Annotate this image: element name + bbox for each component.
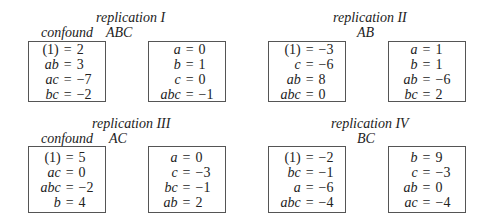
- cell-label: ab: [280, 72, 300, 87]
- equals-sign: =: [66, 165, 74, 180]
- cell-value: 1: [436, 42, 451, 57]
- equals-sign: =: [306, 195, 314, 210]
- cell-value: −1: [199, 87, 214, 102]
- cell-value: −4: [436, 195, 451, 210]
- equals-sign: =: [186, 42, 194, 57]
- equals-sign: =: [306, 57, 314, 72]
- equals-sign: =: [64, 87, 72, 102]
- cell-label: c: [164, 165, 178, 180]
- equals-sign: =: [423, 42, 431, 57]
- equals-sign: =: [183, 180, 191, 195]
- cell-value: 0: [196, 150, 211, 165]
- cell-value: −6: [319, 57, 334, 72]
- cell-label: ab: [164, 195, 178, 210]
- cell-label: a: [164, 150, 178, 165]
- cell-label: abc: [40, 180, 60, 195]
- cell-label: bc: [404, 87, 418, 102]
- cell-value: −6: [319, 180, 334, 195]
- cell-label: (1): [40, 150, 60, 165]
- cell-value: −2: [77, 87, 92, 102]
- cell-value: 9: [436, 150, 451, 165]
- cell-value: 0: [319, 87, 334, 102]
- equals-sign: =: [423, 195, 431, 210]
- equals-sign: =: [66, 195, 74, 210]
- cell-label: ab: [404, 72, 418, 87]
- cell-label: (1): [280, 42, 300, 57]
- equals-sign: =: [423, 180, 431, 195]
- equals-sign: =: [64, 72, 72, 87]
- equals-sign: =: [306, 42, 314, 57]
- cell-value: −1: [319, 165, 334, 180]
- cell-label: ac: [42, 72, 58, 87]
- cell-label: bc: [280, 165, 300, 180]
- cell-label: b: [40, 195, 60, 210]
- cell-label: c: [280, 57, 300, 72]
- cell-value: 4: [79, 195, 94, 210]
- equals-sign: =: [423, 165, 431, 180]
- cell-label: a: [280, 180, 300, 195]
- cell-label: (1): [42, 42, 58, 57]
- cell-label: a: [404, 42, 418, 57]
- equals-sign: =: [66, 150, 74, 165]
- cell-label: b: [404, 150, 418, 165]
- equals-sign: =: [306, 72, 314, 87]
- replication-2-confound: AB: [357, 25, 374, 41]
- cell-label: bc: [164, 180, 178, 195]
- cell-value: 2: [196, 195, 211, 210]
- cell-value: 3: [77, 57, 92, 72]
- cell-value: −1: [196, 180, 211, 195]
- cell-value: −4: [319, 195, 334, 210]
- replication-3-confound-label: confound: [41, 131, 93, 147]
- replication-3-block-1: (1)=5 ac=0 abc=−2 b=4: [28, 146, 106, 213]
- equals-sign: =: [186, 72, 194, 87]
- replication-3-block-2: a=0 c=−3 bc=−1 ab=2: [148, 146, 226, 213]
- equals-sign: =: [306, 165, 314, 180]
- equals-sign: =: [423, 72, 431, 87]
- equals-sign: =: [306, 180, 314, 195]
- cell-value: −3: [196, 165, 211, 180]
- replication-3-title: replication III: [92, 116, 170, 132]
- cell-label: a: [160, 42, 180, 57]
- cell-value: 2: [436, 87, 451, 102]
- cell-value: −7: [77, 72, 92, 87]
- cell-value: −6: [436, 72, 451, 87]
- cell-value: 1: [436, 57, 451, 72]
- equals-sign: =: [64, 57, 72, 72]
- cell-value: −3: [436, 165, 451, 180]
- cell-value: −3: [319, 42, 334, 57]
- cell-label: c: [160, 72, 180, 87]
- equals-sign: =: [66, 180, 74, 195]
- equals-sign: =: [186, 87, 194, 102]
- replication-3-confound: AC: [109, 131, 127, 147]
- cell-value: 0: [436, 180, 451, 195]
- cell-label: abc: [280, 87, 300, 102]
- replication-2-block-2: a=1 b=1 ab=−6 bc=2: [388, 41, 466, 102]
- cell-label: b: [404, 57, 418, 72]
- replication-2-title: replication II: [333, 10, 407, 26]
- cell-label: abc: [160, 87, 180, 102]
- replication-2-block-1: (1)=−3 c=−6 ab=8 abc=0: [268, 41, 346, 102]
- equals-sign: =: [64, 42, 72, 57]
- cell-value: 5: [79, 150, 94, 165]
- replication-4-title: replication IV: [331, 116, 409, 132]
- equals-sign: =: [183, 195, 191, 210]
- equals-sign: =: [423, 57, 431, 72]
- replication-1-block-2: a=0 b=1 c=0 abc=−1: [148, 41, 226, 102]
- equals-sign: =: [186, 57, 194, 72]
- cell-value: 2: [77, 42, 92, 57]
- cell-label: b: [160, 57, 180, 72]
- replication-1-confound-label: confound: [41, 25, 93, 41]
- equals-sign: =: [423, 87, 431, 102]
- cell-value: −2: [319, 150, 334, 165]
- cell-value: 0: [199, 72, 214, 87]
- equals-sign: =: [183, 165, 191, 180]
- replication-1-title: replication I: [96, 10, 165, 26]
- equals-sign: =: [306, 150, 314, 165]
- equals-sign: =: [306, 87, 314, 102]
- cell-label: ab: [42, 57, 58, 72]
- cell-label: bc: [42, 87, 58, 102]
- replication-4-block-1: (1)=−2 bc=−1 a=−6 abc=−4: [268, 146, 346, 213]
- cell-label: ab: [404, 180, 418, 195]
- cell-label: ac: [404, 195, 418, 210]
- cell-label: c: [404, 165, 418, 180]
